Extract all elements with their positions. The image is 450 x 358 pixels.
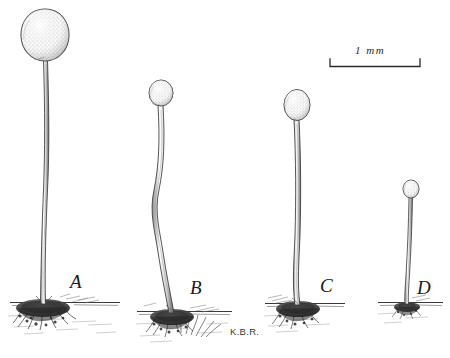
specimen-d-stalk [405,197,413,304]
figure-label-a: A [70,272,82,291]
figure-label-d: D [417,278,431,297]
specimen-d-holdfast [392,302,421,319]
specimen-b-head [149,80,173,106]
figure-label-b: B [190,278,202,297]
artist-signature: K.B.R. [230,326,259,337]
specimen-d-head [403,180,419,198]
figure-label-c: C [320,276,333,295]
specimen-b-stalk [152,105,174,313]
specimen-b [136,80,232,342]
specimen-a-stalk [36,60,52,304]
specimen-c-head [284,90,310,121]
specimen-c-stalk [292,119,301,305]
scale-bar-label: 1 mm [355,44,385,56]
specimen-d [378,180,443,323]
specimen-a [8,9,120,334]
illustration-plate: 1 mm A B C D K.B.R. [0,0,450,358]
specimen-a-head [21,9,69,61]
scale-bar [330,59,420,67]
